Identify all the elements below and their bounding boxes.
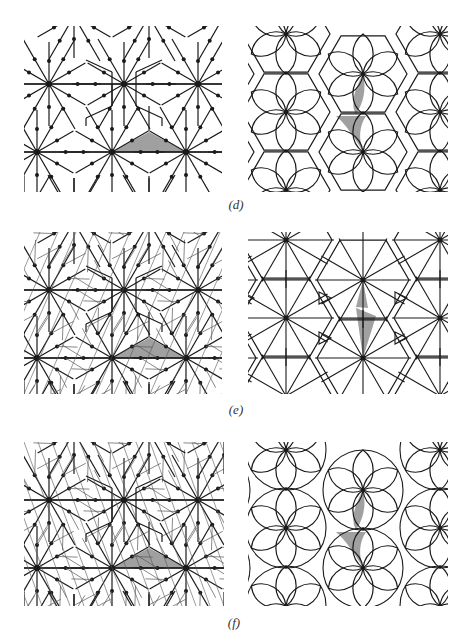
caption-f: (f) xyxy=(214,615,254,631)
graph-e xyxy=(24,232,222,394)
graph-f xyxy=(24,442,224,606)
tiling-f xyxy=(248,442,448,606)
graph-d xyxy=(24,26,222,192)
panel-d-left xyxy=(24,26,222,192)
tiling-e xyxy=(248,232,448,394)
panel-f-right xyxy=(248,442,448,606)
panel-f-left xyxy=(24,442,224,606)
panel-e-left xyxy=(24,232,222,394)
caption-e: (e) xyxy=(216,402,256,418)
tiling-d xyxy=(248,26,448,192)
panel-e-right xyxy=(248,232,448,394)
panel-d-right xyxy=(248,26,448,192)
caption-d: (d) xyxy=(216,197,256,213)
